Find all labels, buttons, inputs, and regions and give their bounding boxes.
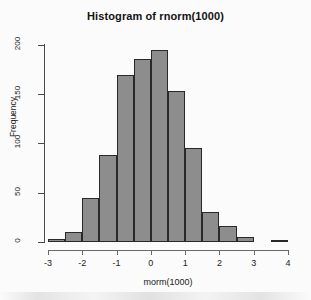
histogram-bar [82,198,99,242]
scan-edge-artifact [0,292,311,300]
x-axis-tick [48,250,49,255]
y-axis-tick-label: 150 [13,76,22,110]
x-axis-tick [117,250,118,255]
histogram-bar [65,232,82,242]
x-axis-tick [185,250,186,255]
y-axis-tick-label: 200 [13,26,22,60]
x-axis-tick-label: 0 [141,258,161,268]
x-axis-tick-label: 1 [175,258,195,268]
histogram-bar [202,212,219,242]
x-axis-tick-label: 2 [209,258,229,268]
x-axis-line [48,250,288,251]
y-axis-line [44,44,45,243]
x-axis-tick-label: 3 [244,258,264,268]
y-axis-tick [38,143,44,144]
x-axis-tick [254,250,255,255]
plot-panel [48,40,288,242]
histogram-bar [151,50,168,242]
y-axis-tick [38,45,44,46]
y-axis-tick [38,94,44,95]
x-axis-tick-label: -3 [38,258,58,268]
x-axis-tick [219,250,220,255]
y-axis-tick-label: 50 [13,174,22,208]
histogram-bar [185,148,202,242]
histogram-bar [168,91,185,242]
x-axis-tick [82,250,83,255]
x-axis-tick-label: 4 [278,258,298,268]
x-axis-tick [151,250,152,255]
y-axis-tick [38,242,44,243]
histogram-bar [99,155,116,242]
x-axis-tick-label: -2 [72,258,92,268]
histogram-bar [271,240,288,242]
histogram-bar [48,239,65,242]
histogram-bar [134,59,151,242]
y-axis-tick [38,193,44,194]
histogram-plot: Histogram of rnorm(1000) Frequency 05010… [0,0,311,300]
chart-title: Histogram of rnorm(1000) [0,10,311,22]
histogram-bar [237,237,254,242]
x-axis-title: morm(1000) [48,277,288,287]
histogram-bar [219,226,236,242]
y-axis-tick-label: 0 [13,224,22,258]
x-axis-tick [288,250,289,255]
x-axis-tick-label: -1 [107,258,127,268]
y-axis-tick-label: 100 [13,125,22,159]
histogram-bar [117,75,134,243]
